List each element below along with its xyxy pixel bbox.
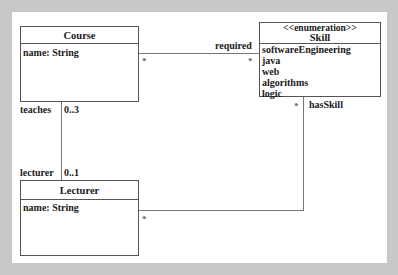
mult-hasskill-skill: * xyxy=(294,101,299,111)
class-lecturer-name: Lecturer xyxy=(21,181,138,200)
mult-teaches-lecturer: 0..1 xyxy=(64,167,79,178)
class-skill[interactable]: <<enumeration>> Skill softwareEngineerin… xyxy=(259,22,381,97)
association-required-line[interactable] xyxy=(139,53,259,54)
mult-required-skill: * xyxy=(248,56,253,66)
class-skill-name: Skill xyxy=(260,33,380,43)
class-course-attribute: name: String xyxy=(21,44,138,58)
association-teaches-line[interactable] xyxy=(61,102,62,180)
class-course[interactable]: Course name: String xyxy=(20,26,139,102)
enum-literal: algorithms xyxy=(260,77,380,88)
enum-literal: logic xyxy=(260,88,380,99)
enum-literal: java xyxy=(260,55,380,66)
role-required: required xyxy=(215,40,252,51)
role-teaches: teaches xyxy=(20,104,51,115)
class-skill-header: <<enumeration>> Skill xyxy=(260,23,380,44)
mult-required-course: * xyxy=(142,56,147,66)
mult-hasskill-lecturer: * xyxy=(142,214,147,224)
association-hasskill-horizontal[interactable] xyxy=(139,210,304,211)
role-lecturer: lecturer xyxy=(20,167,54,178)
enum-literal: softwareEngineering xyxy=(260,44,380,55)
enum-literal: web xyxy=(260,66,380,77)
role-hasskill: hasSkill xyxy=(309,99,343,110)
association-hasskill-vertical[interactable] xyxy=(303,97,304,211)
class-lecturer-attribute: name: String xyxy=(21,200,138,213)
mult-teaches-course: 0..3 xyxy=(64,104,79,115)
class-lecturer[interactable]: Lecturer name: String xyxy=(20,180,139,256)
class-course-name: Course xyxy=(21,27,138,44)
